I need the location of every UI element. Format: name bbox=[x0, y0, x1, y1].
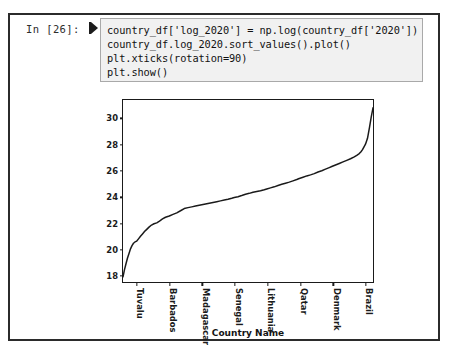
x-axis-tick-mark bbox=[234, 282, 235, 286]
y-axis-tick-label: 30 bbox=[106, 113, 118, 123]
x-axis-tick-mark bbox=[267, 282, 268, 286]
y-axis-tick-mark bbox=[120, 118, 124, 119]
cell-execution-count: In [26]: bbox=[26, 23, 80, 35]
y-axis-tick-mark bbox=[120, 223, 124, 224]
x-axis-tick-label: Senegal bbox=[234, 288, 244, 326]
plot-axes-frame: 18202224262830TuvaluBarbadosMadagascarSe… bbox=[122, 99, 374, 283]
y-axis-tick-mark bbox=[120, 275, 124, 276]
code-line: plt.show() bbox=[107, 65, 416, 79]
x-axis-tick-label: Tuvalu bbox=[135, 288, 145, 319]
cell-prompt-row: In [26]: country_df['log_2020'] = np.log… bbox=[10, 15, 438, 85]
y-axis-tick-label: 18 bbox=[106, 271, 118, 281]
line-chart: 18202224262830TuvaluBarbadosMadagascarSe… bbox=[10, 85, 442, 341]
x-axis-tick-label: Brazil bbox=[364, 288, 374, 315]
notebook-cell[interactable]: In [26]: country_df['log_2020'] = np.log… bbox=[8, 13, 440, 341]
code-line: country_df['log_2020'] = np.log(country_… bbox=[107, 23, 416, 37]
x-axis-tick-mark bbox=[136, 282, 137, 286]
y-axis-tick-mark bbox=[120, 144, 124, 145]
y-axis-tick-mark bbox=[120, 197, 124, 198]
x-axis-tick-label: Barbados bbox=[168, 288, 178, 333]
code-line: country_df.log_2020.sort_values().plot() bbox=[107, 37, 416, 51]
x-axis-title: Country Name bbox=[122, 328, 374, 338]
x-axis-tick-mark bbox=[300, 282, 301, 286]
y-axis-tick-mark bbox=[120, 170, 124, 171]
code-editor[interactable]: country_df['log_2020'] = np.log(country_… bbox=[100, 18, 423, 82]
y-axis-tick-label: 24 bbox=[106, 192, 118, 202]
run-cell-icon[interactable] bbox=[89, 22, 98, 34]
cell-output-figure: 18202224262830TuvaluBarbadosMadagascarSe… bbox=[10, 85, 442, 341]
code-line: plt.xticks(rotation=90) bbox=[107, 51, 416, 65]
y-axis-tick-label: 22 bbox=[106, 219, 118, 229]
y-axis-tick-mark bbox=[120, 249, 124, 250]
y-axis-tick-label: 20 bbox=[106, 245, 118, 255]
x-axis-tick-mark bbox=[202, 282, 203, 286]
x-axis-tick-mark bbox=[333, 282, 334, 286]
y-axis-tick-label: 28 bbox=[106, 140, 118, 150]
plot-line-series bbox=[123, 100, 373, 282]
x-axis-tick-label: Qatar bbox=[299, 288, 309, 315]
x-axis-tick-mark bbox=[365, 282, 366, 286]
x-axis-tick-label: Lithuania bbox=[266, 288, 276, 332]
x-axis-tick-mark bbox=[169, 282, 170, 286]
x-axis-tick-label: Denmark bbox=[332, 288, 342, 331]
y-axis-tick-label: 26 bbox=[106, 166, 118, 176]
